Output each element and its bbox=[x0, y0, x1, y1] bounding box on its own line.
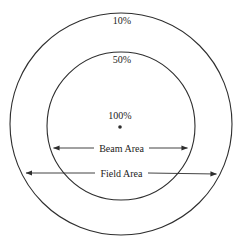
outer-ring-percent-label: 10% bbox=[113, 15, 131, 26]
concentric-circles-canvas: 10% 50% 100% Beam Area Field Area bbox=[0, 0, 243, 252]
beam-area-arrow: Beam Area bbox=[54, 143, 188, 154]
dose-field-diagram: 10% 50% 100% Beam Area Field Area bbox=[0, 0, 243, 252]
field-area-circle bbox=[10, 13, 232, 235]
center-point-dot bbox=[118, 125, 122, 129]
inner-ring-percent-label: 50% bbox=[113, 54, 131, 65]
field-area-arrow: Field Area bbox=[26, 168, 217, 179]
beam-area-label: Beam Area bbox=[99, 143, 144, 154]
center-percent-label: 100% bbox=[108, 110, 131, 121]
field-area-label: Field Area bbox=[101, 168, 143, 179]
field-arrow-right-segment bbox=[148, 173, 217, 174]
